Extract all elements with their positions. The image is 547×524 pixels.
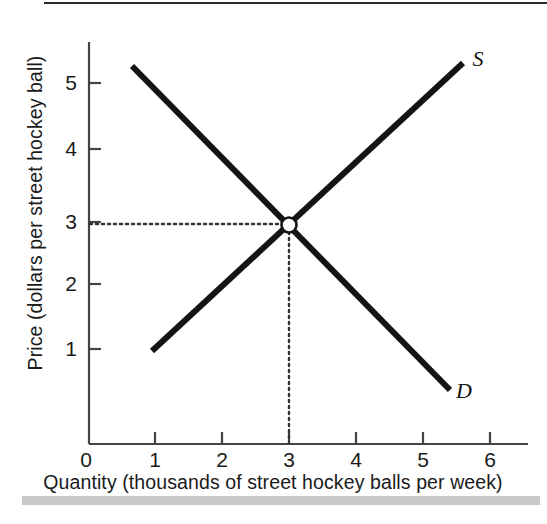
plot-area bbox=[0, 0, 547, 524]
y-tick-label-1: 1 bbox=[65, 337, 77, 361]
y-tick-label-2: 2 bbox=[65, 272, 77, 296]
x-tick-label-0: 0 bbox=[80, 448, 92, 472]
supply-curve-label: S bbox=[473, 46, 484, 72]
supply-demand-figure: 5 4 3 2 1 0 1 2 3 4 5 6 S D Price (dolla… bbox=[0, 0, 547, 524]
x-tick-label-4: 4 bbox=[350, 448, 362, 472]
page-bottom-bar bbox=[22, 496, 540, 505]
x-tick-label-3: 3 bbox=[283, 448, 295, 472]
y-axis-title: Price (dollars per street hockey ball) bbox=[24, 56, 47, 371]
x-tick-label-2: 2 bbox=[216, 448, 228, 472]
equilibrium-point-marker bbox=[282, 218, 297, 233]
demand-curve-label: D bbox=[456, 378, 472, 404]
y-tick-label-5: 5 bbox=[65, 71, 77, 95]
y-tick-label-3: 3 bbox=[65, 210, 77, 234]
x-tick-label-1: 1 bbox=[149, 448, 161, 472]
supply-curve bbox=[152, 63, 463, 351]
y-tick-label-4: 4 bbox=[65, 137, 77, 161]
x-tick-label-6: 6 bbox=[484, 448, 496, 472]
x-axis-title: Quantity (thousands of street hockey bal… bbox=[43, 471, 502, 494]
x-tick-label-5: 5 bbox=[417, 448, 429, 472]
